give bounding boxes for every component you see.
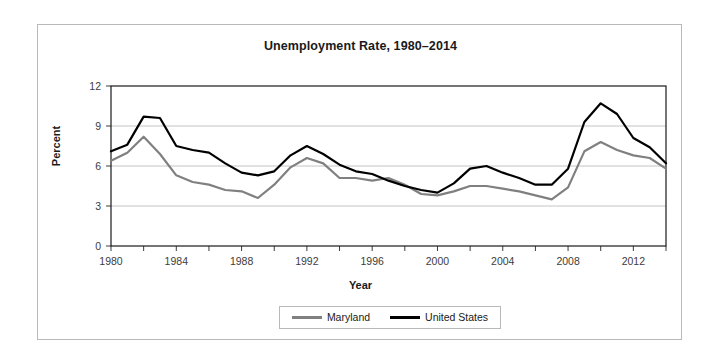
legend-item-maryland: Maryland	[292, 312, 370, 323]
x-tick-label: 1980	[99, 255, 123, 267]
x-tick-label: 1996	[360, 255, 384, 267]
x-axis-ticks: 198019841988199219962000200420082012	[99, 246, 666, 267]
legend-label-maryland: Maryland	[327, 312, 370, 323]
series-line-united-states	[111, 103, 666, 192]
x-tick-label: 2012	[622, 255, 646, 267]
x-tick-label: 1992	[295, 255, 319, 267]
legend-swatch-united-states	[390, 316, 420, 319]
data-series	[111, 103, 666, 199]
x-tick-label: 1984	[165, 255, 189, 267]
x-tick-label: 2008	[556, 255, 580, 267]
y-axis-ticks: 036912	[89, 80, 111, 252]
y-tick-label: 6	[95, 160, 101, 172]
gridlines	[111, 126, 666, 206]
legend-item-united-states: United States	[390, 312, 488, 323]
legend-label-united-states: United States	[425, 312, 488, 323]
figure-frame: Unemployment Rate, 1980–2014 Percent Yea…	[37, 24, 682, 340]
x-tick-label: 2004	[491, 255, 515, 267]
legend: Maryland United States	[279, 306, 501, 329]
y-tick-label: 0	[95, 240, 101, 252]
y-tick-label: 9	[95, 120, 101, 132]
plot-area: 036912 198019841988199219962000200420082…	[38, 25, 683, 305]
legend-swatch-maryland	[292, 316, 322, 319]
y-tick-label: 12	[89, 80, 101, 92]
x-tick-label: 1988	[230, 255, 254, 267]
y-tick-label: 3	[95, 200, 101, 212]
series-line-maryland	[111, 137, 666, 200]
x-tick-label: 2000	[426, 255, 450, 267]
